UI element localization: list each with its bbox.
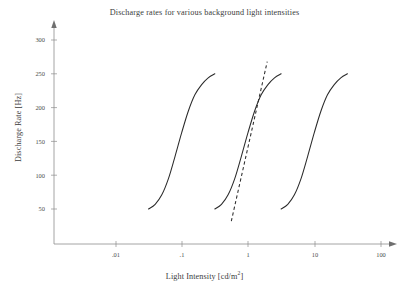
x-tick-label-100: 100 [376,251,386,258]
x-tick-label-0-1: .1 [180,251,185,258]
chart-figure: Discharge rates for various background l… [0,0,409,295]
y-tick-label-50: 50 [39,205,45,212]
y-tick-label-150: 150 [35,138,45,145]
y-tick-label-300: 300 [35,36,45,43]
x-tick-label-0-01: .01 [112,251,120,258]
plot-area: 300 250 200 150 100 50 .01 .1 1 10 100 [0,0,409,295]
y-tick-label-200: 200 [35,104,45,111]
x-tick-label-10: 10 [312,251,318,258]
tangent-line-mid-curve [231,62,267,222]
data-series-layer [149,62,348,222]
curve-low-adaptation [149,74,215,209]
y-tick-label-100: 100 [35,172,45,179]
x-axis-arrow-icon [389,241,397,246]
y-tick-label-250: 250 [35,70,45,77]
x-tick-label-1: 1 [246,251,249,258]
y-axis-arrow-icon [51,20,56,28]
curve-high-adaptation [281,74,347,209]
curve-mid-adaptation [215,74,281,209]
